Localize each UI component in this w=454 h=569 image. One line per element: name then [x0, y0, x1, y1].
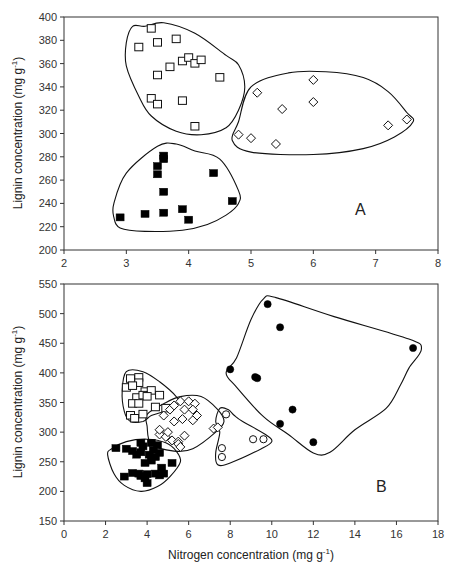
data-point: [168, 459, 176, 466]
data-point: [160, 156, 168, 163]
y-tick-label: 400: [39, 11, 57, 23]
data-point: [151, 403, 159, 411]
series-circle-filled: [227, 301, 417, 446]
data-point: [264, 301, 271, 308]
x-tick-label: 6: [310, 257, 316, 269]
y-tick-label: 200: [39, 244, 57, 256]
x-tick-label: 14: [349, 528, 361, 540]
data-point: [154, 171, 162, 178]
series-square-filled: [116, 152, 236, 223]
data-point: [216, 74, 224, 82]
data-point: [247, 134, 256, 143]
data-point: [135, 400, 143, 408]
data-point: [137, 449, 145, 456]
data-point: [154, 100, 162, 108]
x-tick-label: 3: [123, 257, 129, 269]
series-square-open: [135, 25, 224, 130]
x-tick-label: 8: [435, 257, 441, 269]
data-point: [147, 439, 155, 446]
y-tick-label: 300: [39, 128, 57, 140]
data-point: [154, 71, 162, 79]
data-point: [178, 97, 186, 105]
y-tick-label: 240: [39, 197, 57, 209]
data-point: [191, 123, 199, 131]
y-tick-label: 200: [39, 485, 57, 497]
data-point: [278, 105, 287, 114]
cluster-outline: [232, 71, 414, 155]
data-point: [276, 420, 283, 427]
cluster-outline: [113, 143, 241, 231]
panel-label: A: [355, 201, 366, 218]
data-point: [170, 417, 179, 426]
y-tick-label: 450: [39, 337, 57, 349]
x-tick-label: 18: [432, 528, 444, 540]
x-tick-label: 2: [102, 528, 108, 540]
y-tick-label: 360: [39, 58, 57, 70]
data-point: [310, 439, 317, 446]
data-point: [289, 406, 296, 413]
data-point: [141, 459, 149, 466]
data-point: [253, 88, 262, 97]
data-point: [218, 445, 225, 452]
panel-a: 2345678200220240260280300320340360380400…: [10, 11, 441, 269]
y-tick-label: 320: [39, 104, 57, 116]
data-point: [126, 375, 134, 383]
data-point: [178, 415, 187, 424]
y-tick-label: 340: [39, 81, 57, 93]
data-point: [197, 56, 205, 64]
x-tick-label: 5: [248, 257, 254, 269]
x-tick-label: 4: [144, 528, 150, 540]
y-tick-label: 250: [39, 456, 57, 468]
y-tick-label: 260: [39, 174, 57, 186]
data-point: [160, 188, 168, 195]
data-point: [222, 411, 229, 418]
data-point: [120, 473, 128, 480]
x-tick-label: 8: [227, 528, 233, 540]
x-tick-label: 16: [390, 528, 402, 540]
data-point: [166, 63, 174, 71]
series-diamond-open: [234, 75, 411, 148]
data-point: [276, 324, 283, 331]
y-tick-label: 380: [39, 34, 57, 46]
data-point: [143, 480, 151, 487]
data-point: [210, 170, 218, 177]
data-point: [172, 35, 180, 43]
data-point: [156, 472, 164, 479]
data-point: [271, 139, 280, 148]
data-point: [154, 39, 162, 47]
data-point: [141, 210, 149, 217]
x-axis-title: Nitrogen concentration (mg g-1): [168, 547, 334, 562]
data-point: [218, 453, 225, 460]
data-point: [139, 410, 147, 418]
cluster-outline: [125, 23, 245, 135]
x-tick-label: 12: [307, 528, 319, 540]
data-point: [131, 414, 139, 422]
data-point: [112, 445, 120, 452]
data-point: [129, 470, 137, 477]
data-point: [227, 366, 234, 373]
y-tick-label: 220: [39, 221, 57, 233]
y-axis-title: Lignin concentration (mg g-1): [10, 57, 25, 210]
data-point: [260, 436, 267, 443]
figure: 2345678200220240260280300320340360380400…: [0, 0, 454, 569]
data-point: [129, 382, 137, 390]
data-point: [160, 209, 168, 216]
data-point: [254, 375, 261, 382]
data-point: [409, 344, 416, 351]
y-tick-label: 150: [39, 515, 57, 527]
data-point: [309, 75, 318, 84]
data-point: [156, 391, 164, 399]
y-tick-label: 500: [39, 308, 57, 320]
data-point: [116, 214, 124, 221]
data-point: [180, 431, 189, 440]
panel-label: B: [376, 478, 387, 495]
x-tick-label: 4: [186, 257, 192, 269]
x-tick-label: 7: [373, 257, 379, 269]
y-tick-label: 300: [39, 426, 57, 438]
scatter-figure: 2345678200220240260280300320340360380400…: [0, 0, 454, 569]
series-circle-open: [218, 411, 267, 461]
data-point: [154, 163, 162, 170]
data-point: [185, 216, 193, 223]
data-point: [234, 130, 243, 139]
data-point: [147, 25, 155, 33]
